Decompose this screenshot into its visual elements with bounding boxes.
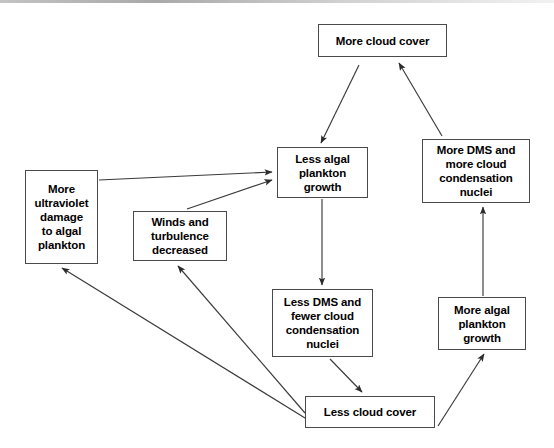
- node-less-dms-fewer-nuclei[interactable]: Less DMS andfewer cloudcondensationnucle…: [272, 289, 373, 357]
- edge-more-cloud-to-less-algal: [321, 65, 359, 143]
- node-less-cloud-cover[interactable]: Less cloud cover: [305, 396, 435, 428]
- edge-more-dms-to-more-cloud: [399, 63, 442, 136]
- node-more-dms-more-nuclei[interactable]: More DMS andmore cloudcondensationnuclei: [422, 139, 530, 203]
- node-label: More DMS andmore cloudcondensationnuclei: [427, 143, 525, 199]
- edge-less-cloud-to-more-algal: [438, 354, 484, 426]
- edge-more-uv-to-less-algal: [99, 172, 272, 180]
- node-more-uv-damage[interactable]: Moreultravioletdamageto algalplankton: [25, 170, 98, 264]
- node-label: Less algalplanktongrowth: [282, 152, 363, 194]
- feedback-loop-diagram: More cloud cover Less algalplanktongrowt…: [0, 0, 554, 448]
- node-less-algal-plankton-growth[interactable]: Less algalplanktongrowth: [277, 147, 368, 198]
- node-label: Moreultravioletdamageto algalplankton: [30, 182, 93, 252]
- node-more-algal-plankton-growth[interactable]: More algalplanktongrowth: [438, 297, 526, 350]
- node-label: More cloud cover: [323, 34, 442, 48]
- edge-less-cloud-to-more-uv: [62, 268, 305, 418]
- node-label: Winds andturbulencedecreased: [138, 215, 222, 257]
- node-label: More algalplanktongrowth: [443, 303, 521, 345]
- edge-winds-to-less-algal: [187, 180, 272, 209]
- node-label: Less cloud cover: [310, 405, 430, 419]
- node-winds-turbulence-decreased[interactable]: Winds andturbulencedecreased: [133, 211, 227, 261]
- node-more-cloud-cover[interactable]: More cloud cover: [318, 24, 447, 57]
- node-label: Less DMS andfewer cloudcondensationnucle…: [277, 295, 368, 351]
- edge-less-dms-to-less-cloud: [330, 359, 362, 392]
